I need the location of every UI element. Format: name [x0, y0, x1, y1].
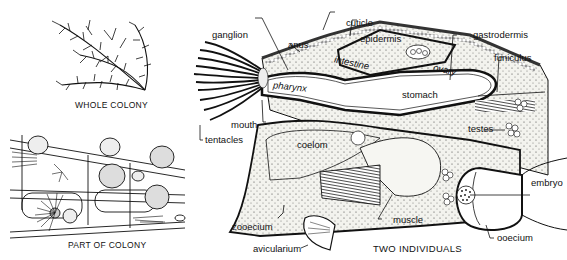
- label-stomach: stomach: [402, 90, 438, 100]
- caption-two-individuals: TWO INDIVIDUALS: [373, 243, 462, 254]
- label-epidermis: epidermis: [360, 34, 401, 44]
- label-ooecium: ooecium: [497, 233, 533, 243]
- label-cuticle: cuticle: [346, 18, 373, 28]
- caption-whole-colony: WHOLE COLONY: [75, 100, 148, 110]
- label-muscle: muscle: [393, 215, 423, 225]
- label-embryo: embryo: [531, 178, 563, 188]
- caption-part-of-colony: PART OF COLONY: [68, 240, 146, 250]
- label-ganglion: ganglion: [212, 30, 248, 40]
- label-anus: anus: [288, 40, 309, 50]
- label-mouth: mouth: [231, 120, 257, 130]
- label-funiculus: funiculus: [494, 53, 532, 63]
- label-testes: testes: [468, 124, 493, 134]
- bryozoan-anatomy-figure: WHOLE COLONY PART OF COLONY TWO INDIVIDU…: [0, 0, 567, 260]
- label-gastrodermis: gastrodermis: [473, 30, 528, 40]
- label-coelom: coelom: [297, 140, 328, 150]
- part-of-colony-drawing: [10, 135, 185, 238]
- whole-colony-drawing: [52, 20, 151, 90]
- label-zooecium: zooecium: [232, 222, 273, 232]
- label-tentacles: tentacles: [205, 135, 243, 145]
- tentacles-drawing: [194, 42, 262, 120]
- label-avicularium: avicularium: [253, 244, 301, 254]
